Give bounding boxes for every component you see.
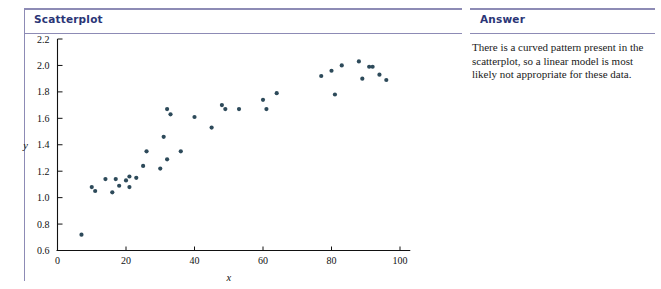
- scatterplot-panel-heading: Scatterplot: [34, 13, 103, 25]
- panel-top-rule: [24, 8, 462, 10]
- page-root: Scatterplot Answer There is a curved pat…: [0, 0, 661, 289]
- answer-panel: Answer There is a curved pattern present…: [470, 8, 655, 281]
- answer-panel-heading: Answer: [480, 13, 525, 25]
- scatterplot-panel: Scatterplot: [24, 8, 462, 281]
- answer-top-rule: [470, 8, 655, 10]
- panel-heading-underrule: [24, 33, 462, 34]
- answer-text: There is a curved pattern present in the…: [472, 41, 650, 82]
- answer-heading-underrule: [470, 33, 655, 34]
